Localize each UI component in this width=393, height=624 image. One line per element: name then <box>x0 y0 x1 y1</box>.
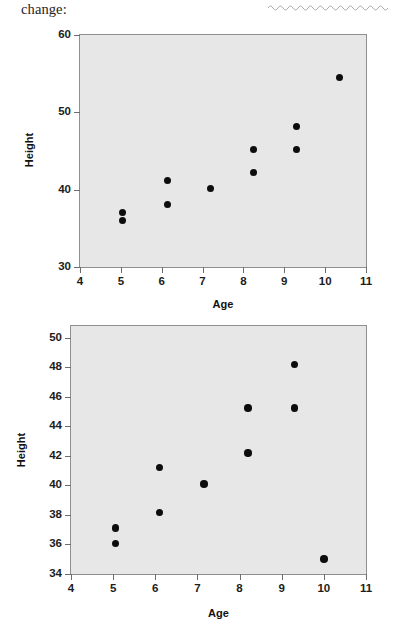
x-tick-label: 9 <box>281 275 287 287</box>
data-point <box>250 146 257 153</box>
x-tick-mark-icon <box>366 574 367 580</box>
data-point <box>164 201 171 208</box>
y-tick-label: 46 <box>49 390 62 402</box>
data-point <box>244 449 252 457</box>
redaction-squiggle-icon <box>268 2 388 12</box>
x-tick-mark-icon <box>162 267 163 273</box>
data-point <box>200 480 208 488</box>
data-point <box>291 361 299 369</box>
y-tick-label: 60 <box>58 28 71 40</box>
scatter-chart-top: Height 304050604567891011 Age <box>0 26 393 314</box>
x-tick-label: 5 <box>118 275 124 287</box>
data-point <box>250 169 257 176</box>
y-tick-label: 50 <box>49 331 62 343</box>
y-tick-mark-icon <box>65 544 71 545</box>
x-tick-label: 4 <box>77 275 83 287</box>
y-tick-mark-icon <box>65 367 71 368</box>
x-tick-mark-icon <box>121 267 122 273</box>
x-tick-mark-icon <box>282 574 283 580</box>
header-text: change: <box>21 1 67 18</box>
x-tick-mark-icon <box>284 267 285 273</box>
data-point <box>164 177 171 184</box>
y-tick-mark-icon <box>74 35 80 36</box>
y-axis-title-top: Height <box>23 120 35 180</box>
x-tick-label: 10 <box>319 275 332 287</box>
y-tick-label: 36 <box>49 537 62 549</box>
data-point <box>112 524 120 532</box>
x-tick-label: 4 <box>68 582 74 594</box>
x-tick-label: 8 <box>236 582 242 594</box>
y-tick-label: 44 <box>49 419 62 431</box>
x-tick-mark-icon <box>71 574 72 580</box>
x-tick-mark-icon <box>203 267 204 273</box>
plot-area-top: 304050604567891011 <box>79 34 367 268</box>
x-tick-mark-icon <box>197 574 198 580</box>
x-tick-mark-icon <box>155 574 156 580</box>
y-tick-mark-icon <box>65 456 71 457</box>
x-tick-mark-icon <box>113 574 114 580</box>
x-tick-mark-icon <box>325 267 326 273</box>
x-tick-label: 11 <box>360 275 372 287</box>
y-tick-label: 40 <box>58 183 71 195</box>
y-tick-label: 34 <box>49 567 62 579</box>
data-point <box>207 185 214 192</box>
x-tick-mark-icon <box>80 267 81 273</box>
data-point <box>320 555 328 563</box>
y-tick-label: 42 <box>49 449 62 461</box>
x-tick-label: 9 <box>279 582 285 594</box>
x-tick-label: 6 <box>152 582 158 594</box>
data-point <box>119 217 126 224</box>
plot-points-bottom <box>71 326 366 574</box>
page-header: change: <box>0 0 393 24</box>
data-point <box>156 464 164 472</box>
x-tick-mark-icon <box>366 267 367 273</box>
y-tick-label: 50 <box>58 105 71 117</box>
x-tick-mark-icon <box>240 574 241 580</box>
y-tick-label: 38 <box>49 508 62 520</box>
x-tick-label: 6 <box>159 275 165 287</box>
plot-points-top <box>80 35 366 267</box>
y-tick-mark-icon <box>65 397 71 398</box>
y-tick-mark-icon <box>74 190 80 191</box>
y-tick-mark-icon <box>74 112 80 113</box>
data-point <box>119 209 126 216</box>
x-tick-label: 10 <box>317 582 330 594</box>
x-tick-label: 7 <box>194 582 200 594</box>
data-point <box>112 540 120 548</box>
y-tick-label: 30 <box>58 260 71 272</box>
x-tick-label: 5 <box>110 582 116 594</box>
data-point <box>293 146 300 153</box>
x-axis-title-top: Age <box>79 298 367 310</box>
scatter-chart-bottom: Height 3436384042444648504567891011 Age <box>0 316 393 624</box>
y-tick-label: 48 <box>49 360 62 372</box>
data-point <box>244 404 252 412</box>
y-tick-mark-icon <box>65 426 71 427</box>
x-tick-label: 7 <box>199 275 205 287</box>
plot-area-bottom: 3436384042444648504567891011 <box>70 325 367 575</box>
x-tick-label: 11 <box>360 582 372 594</box>
data-point <box>293 123 300 130</box>
y-axis-title-bottom: Height <box>15 420 27 480</box>
y-tick-label: 40 <box>49 478 62 490</box>
y-tick-mark-icon <box>65 338 71 339</box>
y-tick-mark-icon <box>65 485 71 486</box>
x-tick-mark-icon <box>243 267 244 273</box>
data-point <box>291 404 299 412</box>
x-axis-title-bottom: Age <box>70 607 367 619</box>
data-point <box>336 74 343 81</box>
y-tick-mark-icon <box>65 515 71 516</box>
x-tick-mark-icon <box>324 574 325 580</box>
x-tick-label: 8 <box>240 275 246 287</box>
data-point <box>156 509 164 517</box>
